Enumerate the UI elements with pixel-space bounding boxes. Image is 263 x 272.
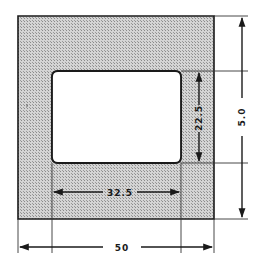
window-outline (52, 71, 181, 163)
dim-label-outer-width: 50 (115, 243, 130, 253)
dim-label-inner-height: 22.5 (194, 105, 204, 131)
dim-label-inner-width: 32.5 (107, 188, 133, 198)
frame-section-diagram: 32.5 50 22.5 5.0 (0, 0, 263, 272)
dim-label-outer-height: 5.0 (237, 108, 247, 127)
